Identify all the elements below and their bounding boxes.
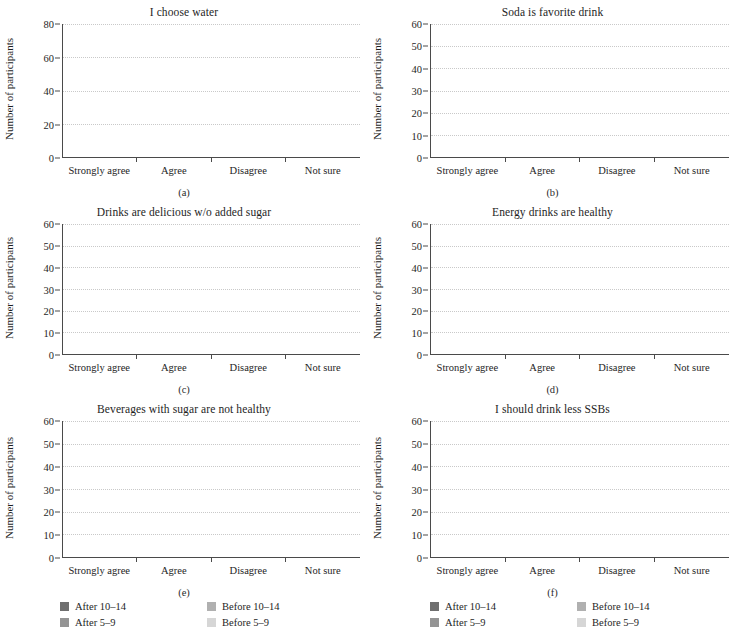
legend-label: After 10–14 [75,601,126,612]
panel-sublabel: (a) [0,187,368,198]
y-tick-label: 0 [49,350,54,361]
y-axis-ticks: 020406080 [28,24,60,158]
legend-swatch-icon [577,618,586,627]
plot-box [430,421,729,558]
bar-group [580,24,655,157]
legend-item-before_10_14[interactable]: Before 10–14 [577,598,720,614]
plot-box [62,24,360,158]
x-tick-label: Not sure [654,362,729,373]
y-tick-mark [55,158,60,159]
legend-item-before_10_14[interactable]: Before 10–14 [207,598,350,614]
bar-group [431,421,506,557]
y-tick-label: 0 [49,153,54,164]
bar-group [506,224,581,354]
x-tick-label: Disagree [580,565,655,576]
y-tick-label: 40 [44,461,55,472]
x-tick-label: Disagree [211,565,286,576]
bar-group [655,421,730,557]
x-tick-label: Not sure [286,165,361,176]
x-axis-labels: Strongly agreeAgreeDisagreeNot sure [62,165,360,176]
legend-item-before_5_9[interactable]: Before 5–9 [207,614,350,630]
x-tick-mark [136,354,137,359]
y-tick-mark [423,489,428,490]
legend-label: Before 10–14 [222,601,279,612]
legend-item-before_5_9[interactable]: Before 5–9 [577,614,720,630]
bar-group [212,24,286,157]
y-tick-label: 40 [412,461,423,472]
y-tick-label: 50 [412,41,423,52]
y-tick-mark [423,355,428,356]
y-axis-label: Number of participants [370,419,385,556]
legend-swatch-icon [60,618,69,627]
plot-box [430,224,729,355]
x-tick-label: Agree [137,165,212,176]
legend-item-after_5_9[interactable]: After 5–9 [60,614,203,630]
x-tick-label: Agree [505,165,580,176]
y-tick-mark [423,443,428,444]
figure-root: I choose waterNumber of participants0204… [0,0,737,640]
bar-group [580,224,655,354]
y-tick-label: 30 [44,284,55,295]
panel-sublabel: (f) [368,587,737,598]
y-tick-mark [55,311,60,312]
y-tick-label: 20 [44,306,55,317]
x-tick-mark [505,157,506,162]
plot-area: 0102030405060 [430,24,729,158]
panel-sublabel: (d) [368,384,737,395]
y-tick-mark [423,113,428,114]
legend-swatch-icon [60,602,69,611]
bar-group [655,24,730,157]
x-tick-label: Strongly agree [430,165,505,176]
chart-panel-f: I should drink less SSBsNumber of partic… [368,397,737,600]
bar-groups [63,224,360,354]
bar-group [655,224,730,354]
panel-sublabel: (c) [0,384,368,395]
plot-area: 0102030405060 [62,421,360,558]
y-tick-mark [423,135,428,136]
y-tick-mark [55,224,60,225]
legend-swatch-icon [207,602,216,611]
y-tick-label: 50 [44,240,55,251]
y-tick-label: 10 [44,530,55,541]
bar-groups [63,24,360,157]
x-tick-mark [654,157,655,162]
bar-group [63,24,137,157]
x-tick-mark [579,354,580,359]
legend-swatch-icon [430,618,439,627]
legend-label: After 10–14 [445,601,496,612]
y-axis-label-text: Number of participants [4,436,16,538]
y-tick-label: 30 [44,484,55,495]
x-tick-mark [211,354,212,359]
x-tick-mark [285,354,286,359]
bar-group [63,224,137,354]
y-tick-mark [55,512,60,513]
y-axis-label: Number of participants [2,222,17,353]
y-tick-label: 40 [412,63,423,74]
legend-f: After 10–14Before 10–14After 5–9Before 5… [430,598,720,630]
bar-group [212,224,286,354]
y-tick-label: 40 [44,86,55,97]
legend-swatch-icon [430,602,439,611]
legend-label: Before 5–9 [592,617,639,628]
y-tick-label: 30 [412,284,423,295]
x-tick-mark [505,354,506,359]
x-tick-label: Not sure [286,565,361,576]
legend-swatch-icon [577,602,586,611]
legend-label: Before 10–14 [592,601,649,612]
x-tick-label: Disagree [580,362,655,373]
x-tick-mark [211,557,212,562]
y-tick-label: 50 [412,438,423,449]
chart-panel-b: Soda is favorite drinkNumber of particip… [368,0,737,200]
y-tick-label: 60 [44,416,55,427]
legend-label: After 5–9 [445,617,486,628]
y-axis-ticks: 0102030405060 [28,421,60,558]
legend-item-after_5_9[interactable]: After 5–9 [430,614,573,630]
bar-group [506,24,581,157]
x-tick-label: Not sure [286,362,361,373]
x-tick-label: Strongly agree [62,362,137,373]
x-axis-labels: Strongly agreeAgreeDisagreeNot sure [430,165,729,176]
legend-item-after_10_14[interactable]: After 10–14 [430,598,573,614]
y-tick-label: 60 [44,219,55,230]
bar-group [431,24,506,157]
legend-item-after_10_14[interactable]: After 10–14 [60,598,203,614]
